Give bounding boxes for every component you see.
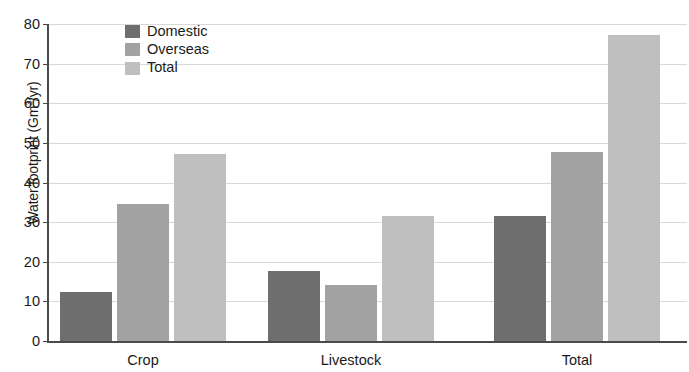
legend-item: Domestic — [125, 24, 209, 39]
y-axis-tick-label: 80 — [24, 16, 40, 32]
y-axis-tick-mark — [43, 341, 49, 342]
legend-item: Overseas — [125, 42, 209, 57]
gridline — [49, 103, 687, 104]
bar — [551, 152, 603, 341]
bar — [60, 292, 112, 341]
y-axis-tick-label: 20 — [24, 254, 40, 270]
legend-item: Total — [125, 60, 209, 75]
y-axis-tick-label: 40 — [24, 175, 40, 191]
y-axis-tick-label: 50 — [24, 135, 40, 151]
y-axis-tick-mark — [43, 103, 49, 104]
y-axis-tick-mark — [43, 183, 49, 184]
legend-item-label: Domestic — [147, 24, 207, 39]
y-axis-tick-label: 70 — [24, 56, 40, 72]
gridline — [49, 143, 687, 144]
bar-chart: Water footprint (Gm3/yr) 010203040506070… — [0, 0, 689, 372]
bar — [325, 285, 377, 341]
y-axis-tick-mark — [43, 222, 49, 223]
bar — [117, 204, 169, 341]
legend-item-label: Overseas — [147, 42, 209, 57]
y-axis-tick-mark — [43, 24, 49, 25]
bar — [174, 154, 226, 341]
y-axis-tick-label: 60 — [24, 95, 40, 111]
x-axis-category-label: Livestock — [321, 352, 381, 368]
legend-swatch-icon — [125, 43, 140, 56]
bar — [268, 271, 320, 341]
chart-legend: DomesticOverseasTotal — [125, 24, 209, 76]
bar — [608, 35, 660, 341]
bar — [494, 216, 546, 341]
legend-swatch-icon — [125, 25, 140, 38]
y-axis-tick-mark — [43, 262, 49, 263]
y-axis-tick-mark — [43, 143, 49, 144]
y-axis-tick-mark — [43, 64, 49, 65]
legend-swatch-icon — [125, 62, 140, 75]
legend-item-label: Total — [147, 60, 178, 75]
bar — [382, 216, 434, 341]
x-axis-category-label: Crop — [127, 352, 158, 368]
y-axis-tick-label: 30 — [24, 214, 40, 230]
y-axis-tick-label: 0 — [32, 333, 40, 349]
y-axis-tick-mark — [43, 301, 49, 302]
y-axis-title-text: Water footprint (Gm — [25, 106, 41, 225]
y-axis-tick-label: 10 — [24, 293, 40, 309]
x-axis-category-label: Total — [562, 352, 593, 368]
